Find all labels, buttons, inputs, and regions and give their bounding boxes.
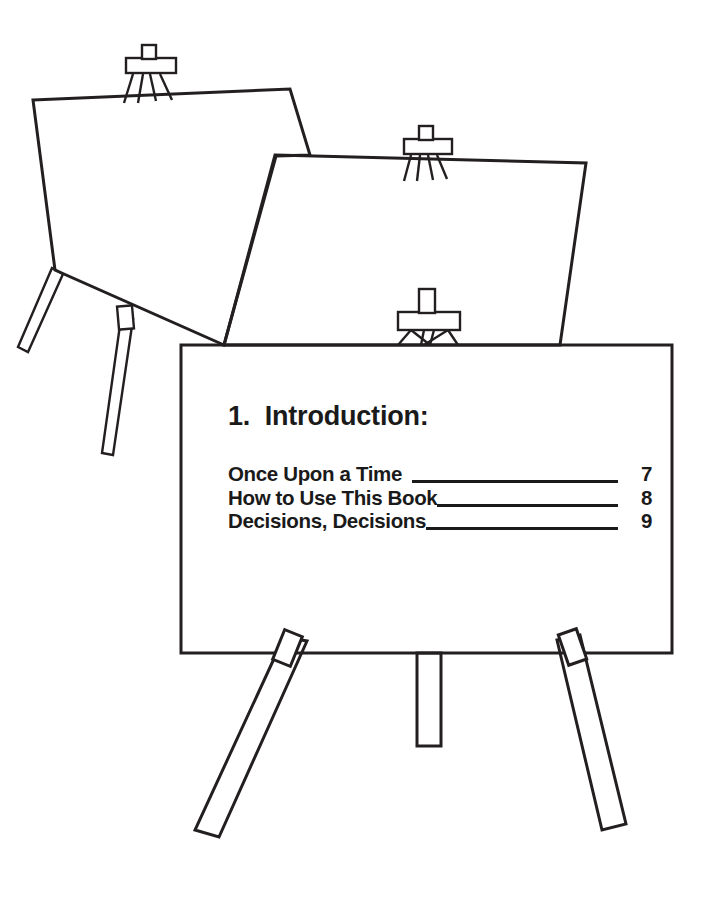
toc-entry-title: How to Use This Book: [228, 486, 437, 510]
back-easel-leg-bracket: [117, 305, 134, 329]
middle-easel-lower-post: [419, 289, 435, 313]
toc-entry-page: 8: [626, 486, 652, 510]
middle-easel-crossbar: [404, 139, 452, 154]
toc-leader-line: [437, 504, 618, 505]
toc-entry-list: Once Upon a Time 7 How to Use This Book …: [228, 462, 652, 533]
back-easel-top-post: [142, 45, 156, 59]
toc-entry-title: Decisions, Decisions: [228, 509, 426, 533]
back-easel-rear-leg: [18, 268, 63, 352]
middle-easel: [224, 126, 586, 345]
middle-easel-top-post: [419, 126, 433, 140]
toc-entry[interactable]: Once Upon a Time 7: [228, 462, 652, 486]
back-easel-crossbar: [126, 58, 176, 73]
back-easel-front-leg: [102, 318, 133, 455]
middle-easel-head: [404, 126, 452, 181]
middle-easel-lower-support: [398, 289, 460, 345]
toc-entry-title: Once Upon a Time: [228, 462, 402, 486]
toc-entry[interactable]: How to Use This Book 8: [228, 486, 652, 510]
back-easel: [18, 45, 310, 455]
toc-entry[interactable]: Decisions, Decisions 9: [228, 509, 652, 533]
table-of-contents-panel: 1. Introduction: Once Upon a Time 7 How …: [228, 402, 658, 572]
front-easel-center-leg: [417, 653, 441, 746]
toc-leader-line: [412, 480, 618, 481]
back-easel-board: [33, 89, 310, 345]
page-root: 1. Introduction: Once Upon a Time 7 How …: [0, 0, 726, 923]
chapter-heading: 1. Introduction:: [228, 402, 658, 430]
toc-entry-page: 7: [626, 462, 652, 486]
middle-easel-lower-crossbar: [398, 312, 460, 330]
toc-entry-page: 9: [626, 509, 652, 533]
toc-leader-line: [426, 527, 618, 528]
